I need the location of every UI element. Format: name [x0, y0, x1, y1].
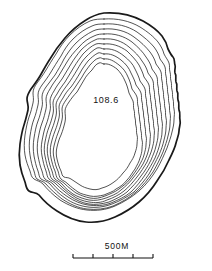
scale-bar-label: 500M — [105, 241, 129, 251]
contour-line-innermost — [56, 63, 137, 190]
scale-bar: 500M — [73, 241, 153, 258]
contour-map-figure: 108.6 500M — [0, 0, 212, 271]
elevation-spot-height-label: 108.6 — [93, 95, 119, 105]
contour-line-4 — [47, 48, 150, 201]
contour-line-2 — [53, 58, 142, 197]
contour-line-outermost — [19, 13, 180, 222]
contour-line-group — [19, 13, 180, 222]
contour-map-canvas: 108.6 500M — [0, 0, 212, 271]
